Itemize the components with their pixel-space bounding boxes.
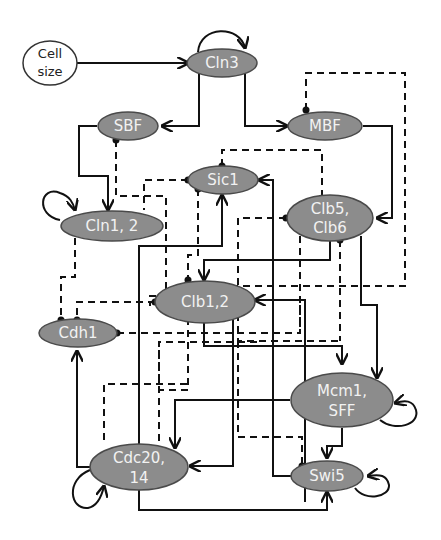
nodes [23,41,393,491]
node-clb56[interactable] [287,195,373,241]
network-diagram [0,0,441,540]
node-cln3[interactable] [187,49,257,77]
node-mbf[interactable] [288,112,362,140]
node-mcm1[interactable] [291,373,393,427]
node-swi5[interactable] [291,461,363,491]
node-cdh1[interactable] [39,319,117,347]
node-cdc20[interactable] [90,444,188,490]
node-sbf[interactable] [98,112,158,140]
activation-edges [43,31,416,510]
node-cln12[interactable] [61,211,163,241]
node-clb12[interactable] [155,281,255,323]
node-sic1[interactable] [188,166,258,194]
node-cell-size[interactable] [23,41,77,85]
